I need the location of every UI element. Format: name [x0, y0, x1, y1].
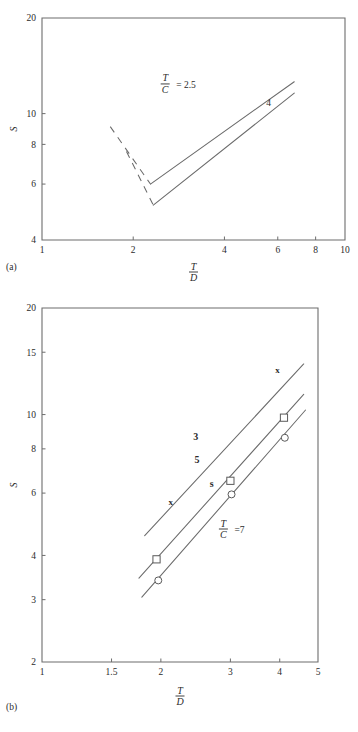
figure-panel-b: 11.5234523468101520STD35sxxTC=7 (b) — [0, 290, 358, 732]
x-tick-label: 8 — [313, 245, 318, 255]
y-tick-label: 20 — [27, 13, 37, 23]
series-line-dashed — [126, 151, 153, 205]
plot-frame — [42, 308, 318, 662]
tc-ratio-annotation: TC=7 — [219, 518, 245, 541]
y-tick-label: 2 — [31, 657, 36, 667]
data-marker-square — [153, 556, 160, 563]
series-line — [139, 394, 304, 578]
y-tick-label: 4 — [31, 235, 36, 245]
y-tick-label: 3 — [31, 595, 36, 605]
axis-box — [42, 18, 345, 240]
y-axis-ticks: 4681020 — [27, 13, 46, 245]
tc-ratio-annotation-value: =7 — [234, 525, 244, 535]
series-line — [145, 364, 304, 536]
chart-b-canvas: 11.5234523468101520STD35sxxTC=7 — [0, 290, 358, 732]
x-axis-title-numerator: T — [177, 685, 184, 696]
y-tick-label: 10 — [27, 109, 37, 119]
series-label-3: 3 — [193, 431, 198, 442]
x-axis-ticks: 11.52345 — [40, 659, 321, 678]
y-tick-label: 8 — [31, 444, 36, 454]
x-tick-label: 10 — [340, 245, 350, 255]
series-group — [139, 364, 306, 597]
series-line-dashed — [110, 127, 150, 184]
x-tick-label: 4 — [277, 667, 282, 677]
series-label-s: s — [210, 478, 214, 489]
marker-x-right: x — [275, 365, 280, 375]
x-tick-label: 6 — [275, 245, 280, 255]
plot-frame — [42, 18, 345, 240]
y-axis-title: S — [8, 483, 19, 488]
x-tick-label: 2 — [158, 667, 163, 677]
series-4 — [126, 93, 294, 205]
series-line — [150, 82, 294, 184]
x-axis-ticks: 1246810 — [40, 237, 350, 256]
x-axis-title-numerator: T — [191, 261, 198, 272]
y-tick-label: 20 — [27, 303, 37, 313]
series-3 — [145, 364, 304, 536]
series-line — [153, 93, 294, 205]
annotations: TC= 2.54 — [161, 72, 272, 107]
y-axis-ticks: 23468101520 — [27, 303, 46, 667]
x-tick-label: 5 — [316, 667, 321, 677]
y-tick-label: 15 — [27, 348, 37, 358]
data-marker-circle — [281, 434, 288, 441]
x-axis-title-denominator: D — [189, 272, 198, 283]
data-marker-circle — [228, 491, 235, 498]
x-tick-label: 1.5 — [106, 667, 118, 677]
y-tick-label: 4 — [31, 551, 36, 561]
tc-ratio-annotation-denominator: C — [220, 529, 227, 540]
x-tick-label: 4 — [222, 245, 227, 255]
series-7 — [142, 410, 306, 597]
tc-ratio-annotation: TC= 2.5 — [161, 72, 196, 95]
data-marker-circle — [155, 577, 162, 584]
tc-ratio-annotation-numerator: T — [221, 518, 228, 529]
x-tick-label: 2 — [131, 245, 136, 255]
data-marker-square — [280, 414, 287, 421]
series-5 — [139, 394, 304, 578]
x-tick-label: 3 — [228, 667, 233, 677]
marker-x-left: x — [169, 497, 174, 507]
series-label-5: 5 — [195, 454, 200, 465]
x-tick-label: 1 — [40, 245, 45, 255]
tc-ratio-annotation-numerator: T — [162, 72, 169, 83]
series-label-4: 4 — [266, 98, 271, 108]
annotations: 35sxxTC=7 — [169, 365, 281, 540]
chart-a-canvas: 12468104681020STDTC= 2.54 — [0, 0, 358, 290]
tc-ratio-annotation-denominator: C — [162, 84, 169, 95]
data-marker-square — [227, 477, 234, 484]
panel-a-label: (a) — [6, 262, 17, 272]
x-axis-title: TD — [175, 685, 184, 708]
panel-b-label: (b) — [6, 702, 17, 712]
figure-panel-a: 12468104681020STDTC= 2.54 (a) — [0, 0, 358, 290]
axis-box — [42, 308, 318, 662]
y-tick-label: 8 — [31, 140, 36, 150]
x-axis-title-denominator: D — [175, 696, 184, 707]
y-tick-label: 10 — [27, 410, 37, 420]
x-tick-label: 1 — [40, 667, 45, 677]
y-tick-label: 6 — [31, 179, 36, 189]
tc-ratio-annotation-value: = 2.5 — [176, 80, 196, 90]
x-axis-title: TD — [189, 261, 198, 284]
y-axis-title: S — [8, 127, 19, 132]
y-tick-label: 6 — [31, 488, 36, 498]
